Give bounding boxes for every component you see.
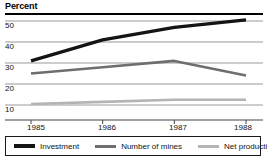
y-axis-tick-20: 20	[5, 84, 14, 93]
legend-swatch-icon	[95, 145, 116, 148]
chart-container: Percent 50 40 30 20 10 1985 1986 1987 19…	[0, 0, 267, 161]
legend-swatch-icon	[14, 144, 35, 148]
x-axis-tick-1986: 1986	[87, 123, 127, 132]
x-axis-tick-1985: 1985	[16, 123, 56, 132]
legend-item-label: Number of mines	[121, 142, 182, 151]
legend-item-number-of-mines[interactable]: Number of mines	[95, 142, 182, 151]
legend-swatch-icon	[198, 145, 219, 148]
y-axis-tick-10: 10	[5, 105, 14, 114]
y-axis-tick-30: 30	[5, 63, 14, 72]
y-axis-tick-50: 50	[5, 21, 14, 30]
x-axis-tick-1987: 1987	[158, 123, 198, 132]
y-axis-tick-40: 40	[5, 42, 14, 51]
legend-item-label: Investment	[40, 142, 79, 151]
legend: InvestmentNumber of minesNet production	[5, 136, 261, 156]
series-line-investment	[31, 20, 246, 61]
legend-item-net-production[interactable]: Net production	[198, 142, 267, 151]
series-line-net-production	[31, 100, 246, 104]
legend-item-label: Net production	[224, 142, 267, 151]
x-axis-tick-1988: 1988	[223, 123, 263, 132]
legend-item-investment[interactable]: Investment	[14, 142, 79, 151]
